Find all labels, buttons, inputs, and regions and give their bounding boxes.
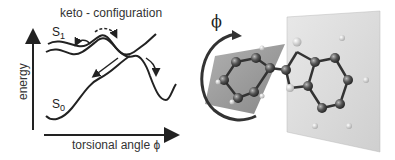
state-s0-label: S0 [52,97,65,113]
diagram-title: keto - configuration [60,6,162,20]
s1-curve-lower [46,38,176,100]
molecule-illustration [202,11,380,152]
state-s1-label: S1 [52,25,65,41]
rotation-angle-label: ϕ [211,12,222,31]
energy-curves-svg [0,0,395,160]
x-axis-label: torsional angle ϕ [72,138,160,152]
y-axis-label: energy [16,63,30,100]
